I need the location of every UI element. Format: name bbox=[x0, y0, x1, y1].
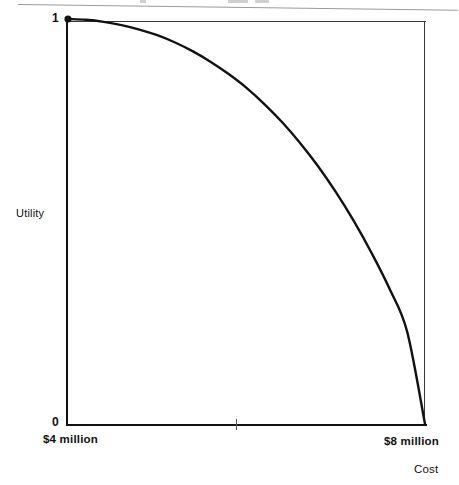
curve-start-marker-icon bbox=[64, 15, 71, 22]
x-axis-max-label: $8 million bbox=[384, 436, 439, 448]
y-axis-min-label: 0 bbox=[52, 416, 59, 428]
x-axis-title: Cost bbox=[414, 464, 438, 476]
x-axis-min-label: $4 million bbox=[43, 434, 98, 446]
y-axis-max-label: 1 bbox=[52, 12, 59, 24]
y-axis-title: Utility bbox=[16, 208, 44, 219]
utility-curve-path bbox=[68, 19, 425, 424]
utility-curve-svg bbox=[0, 0, 459, 485]
utility-cost-figure: 1 0 Utility $4 million $8 million Cost bbox=[0, 0, 459, 485]
